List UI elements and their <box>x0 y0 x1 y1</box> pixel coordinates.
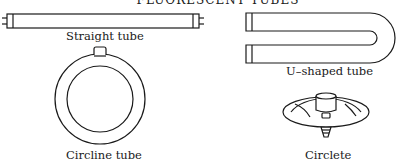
straight-tube-icon <box>2 14 204 28</box>
circline-tube-label: Circline tube <box>66 148 142 162</box>
straight-tube-label: Straight tube <box>66 29 144 43</box>
tube-illustrations <box>0 0 398 165</box>
circlete-icon <box>283 93 369 137</box>
circlete-label: Circlete <box>305 148 351 162</box>
u-shaped-tube-label: U–shaped tube <box>286 64 373 78</box>
u-shaped-tube-icon <box>246 13 395 63</box>
circline-tube-icon <box>55 47 145 144</box>
